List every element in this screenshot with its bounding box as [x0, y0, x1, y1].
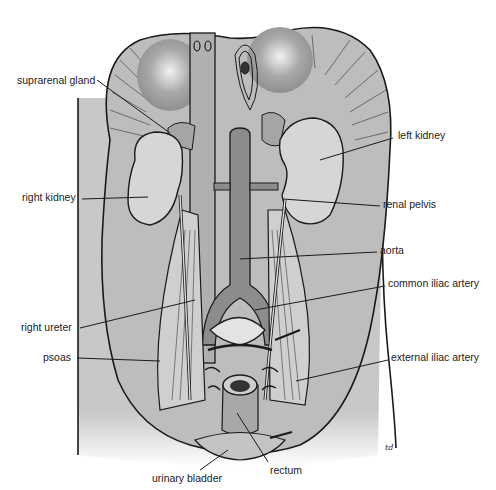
left-kidney: [280, 118, 344, 224]
label-external-iliac-artery: external iliac artery: [391, 351, 479, 363]
label-psoas: psoas: [43, 351, 71, 363]
label-common-iliac-artery: common iliac artery: [388, 277, 479, 289]
label-right-kidney: right kidney: [22, 191, 76, 203]
label-left-kidney: left kidney: [398, 129, 445, 141]
label-rectum: rectum: [270, 464, 302, 476]
label-renal-pelvis: renal pelvis: [383, 198, 436, 210]
artist-signature: td: [385, 443, 393, 452]
anatomy-diagram: suprarenal gland left kidney right kidne…: [0, 0, 496, 490]
rectum: [222, 375, 258, 435]
label-right-ureter: right ureter: [21, 321, 72, 333]
label-suprarenal-gland: suprarenal gland: [17, 74, 95, 86]
label-urinary-bladder: urinary bladder: [152, 472, 222, 484]
left-dome: [247, 27, 313, 93]
label-aorta: aorta: [380, 244, 404, 256]
